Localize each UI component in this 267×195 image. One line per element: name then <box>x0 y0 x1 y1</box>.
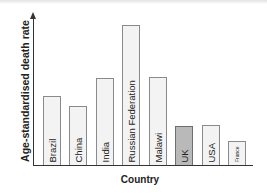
bar-chart: Age-standardised death rate Country Braz… <box>0 0 267 195</box>
bar-label: Russian Federation <box>127 80 137 162</box>
bar-label: France <box>235 146 240 162</box>
bar-malawi: Malawi <box>149 77 167 165</box>
x-axis-title: Country <box>121 174 159 185</box>
bar-label: China <box>74 137 84 162</box>
bar-label: UK <box>180 149 190 162</box>
bar-uk: UK <box>175 126 193 165</box>
bar-label: Brazil <box>48 138 58 162</box>
bar-china: China <box>69 106 87 165</box>
bar-label: India <box>101 141 111 162</box>
y-axis <box>33 17 34 166</box>
bar-india: India <box>96 78 114 165</box>
bar-france: France <box>228 141 246 165</box>
bar-label: Malawi <box>154 132 164 162</box>
y-axis-title: Age-standardised death rate <box>19 20 31 162</box>
bar-russian-federation: Russian Federation <box>122 25 140 165</box>
bar-brazil: Brazil <box>43 96 61 165</box>
bar-usa: USA <box>202 125 220 165</box>
x-axis <box>33 165 253 166</box>
bar-label: USA <box>207 142 217 162</box>
